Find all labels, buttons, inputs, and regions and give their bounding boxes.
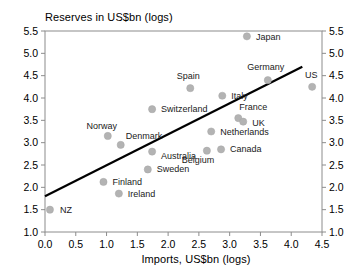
point-marker — [309, 83, 316, 90]
y-tick-label-right: 1.5 — [329, 203, 344, 215]
y-tick-label-right: 1.0 — [329, 226, 344, 238]
point-marker — [219, 92, 226, 99]
y-tick-label-left: 5.0 — [23, 47, 38, 59]
point-marker — [144, 166, 151, 173]
x-axis-title: Imports, US$bn (logs) — [0, 253, 364, 265]
point-label: Canada — [230, 144, 262, 154]
y-tick-label-left: 1.5 — [23, 203, 38, 215]
x-tick-label: 0.0 — [38, 238, 53, 250]
x-tick-label: 2.0 — [161, 238, 176, 250]
x-axis-title-label: Imports, US$bn (logs) — [113, 253, 250, 265]
data-point: NZ — [46, 205, 72, 215]
y-tick-label-right: 5.5 — [329, 25, 344, 37]
point-label: Ireland — [128, 189, 156, 199]
point-label: Germany — [247, 62, 285, 72]
axis-ticks-bottom: 0.00.51.01.52.02.53.03.54.04.5 — [38, 232, 330, 250]
point-label: Italy — [231, 91, 248, 101]
point-label: Sweden — [157, 164, 190, 174]
y-tick-label-right: 2.5 — [329, 159, 344, 171]
point-label: NZ — [60, 205, 72, 215]
y-tick-label-left: 5.5 — [23, 25, 38, 37]
data-point: Denmark — [117, 131, 163, 149]
point-marker — [46, 206, 53, 213]
x-tick-label: 3.5 — [253, 238, 268, 250]
x-tick-label: 1.0 — [99, 238, 114, 250]
point-label: Netherlands — [220, 127, 269, 137]
point-marker — [203, 147, 210, 154]
point-label: Norway — [87, 121, 118, 131]
data-point: Sweden — [144, 164, 189, 174]
point-label: Belgium — [182, 155, 215, 165]
data-point: Finland — [100, 177, 142, 187]
point-label: US — [305, 70, 318, 80]
data-point: Japan — [243, 32, 280, 42]
data-point: US — [305, 70, 318, 91]
data-point: Spain — [177, 71, 200, 92]
y-tick-label-right: 4.0 — [329, 92, 344, 104]
axis-ticks-left: 1.01.52.02.53.03.54.04.55.05.5 — [23, 25, 45, 238]
x-tick-label: 4.5 — [315, 238, 330, 250]
point-label: Switzerland — [161, 104, 208, 114]
x-tick-label: 1.5 — [130, 238, 145, 250]
point-marker — [115, 190, 122, 197]
data-point: Ireland — [115, 189, 155, 199]
axis-ticks-right: 1.01.52.02.53.03.54.04.55.05.5 — [322, 25, 344, 238]
point-marker — [149, 106, 156, 113]
y-tick-label-left: 3.5 — [23, 114, 38, 126]
point-label: France — [239, 102, 267, 112]
point-marker — [240, 118, 247, 125]
point-label: Finland — [112, 177, 142, 187]
point-label: Spain — [177, 71, 200, 81]
y-tick-label-right: 3.0 — [329, 136, 344, 148]
data-point: Netherlands — [208, 127, 270, 137]
x-tick-label: 0.5 — [68, 238, 83, 250]
point-marker — [187, 85, 194, 92]
plot-area: 1.01.52.02.53.03.54.04.55.05.5 1.01.52.0… — [0, 0, 364, 275]
data-point: Canada — [217, 144, 261, 154]
y-tick-label-right: 3.5 — [329, 114, 344, 126]
point-marker — [208, 128, 215, 135]
point-marker — [104, 132, 111, 139]
x-tick-label: 4.0 — [284, 238, 299, 250]
point-marker — [243, 33, 250, 40]
y-tick-label-left: 2.0 — [23, 181, 38, 193]
point-marker — [100, 178, 107, 185]
y-tick-label-left: 1.0 — [23, 226, 38, 238]
y-tick-label-left: 4.0 — [23, 92, 38, 104]
point-marker — [117, 141, 124, 148]
point-label: UK — [252, 118, 265, 128]
point-label: Denmark — [126, 131, 163, 141]
point-label: Japan — [256, 32, 281, 42]
point-marker — [217, 146, 224, 153]
point-marker — [149, 148, 156, 155]
scatter-chart: Reserves in US$bn (logs) 1.01.52.02.53.0… — [0, 0, 364, 275]
data-point: Norway — [87, 121, 118, 140]
data-point: Italy — [219, 91, 249, 101]
data-point: Switzerland — [149, 104, 208, 114]
x-tick-label: 3.0 — [222, 238, 237, 250]
y-tick-label-right: 5.0 — [329, 47, 344, 59]
point-marker — [264, 77, 271, 84]
y-tick-label-left: 3.0 — [23, 136, 38, 148]
y-tick-label-right: 4.5 — [329, 69, 344, 81]
data-point: Germany — [247, 62, 285, 84]
data-points: NZFinlandIrelandNorwayDenmarkSwitzerland… — [46, 32, 317, 214]
y-tick-label-left: 4.5 — [23, 69, 38, 81]
y-tick-label-left: 2.5 — [23, 159, 38, 171]
y-tick-label-right: 2.0 — [329, 181, 344, 193]
x-tick-label: 2.5 — [192, 238, 207, 250]
